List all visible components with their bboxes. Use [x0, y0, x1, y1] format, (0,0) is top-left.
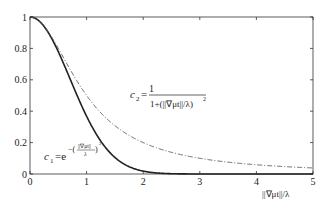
c1-exp-minus: −( [68, 145, 76, 154]
c2-lhs: c [130, 88, 135, 100]
y-tick-label: 0.2 [15, 137, 28, 148]
c1-equals-e: =e [55, 150, 66, 162]
c1-subscript: 1 [50, 157, 54, 165]
c1-exp-denominator: λ [83, 151, 87, 157]
c2-equals: = [141, 88, 147, 100]
y-tick-label: 0.4 [15, 106, 28, 117]
c2-square: 2 [203, 96, 206, 102]
x-tick-label: 2 [141, 176, 146, 187]
x-tick-label: 4 [254, 176, 259, 187]
y-tick-label: 0.8 [15, 43, 28, 54]
c1-exp-numerator: ||∇μt|| [78, 143, 91, 149]
x-tick-label: 3 [197, 176, 202, 187]
y-tick-label: 0.6 [15, 74, 28, 85]
x-tick-label: 1 [84, 176, 89, 187]
x-tick-label: 5 [311, 176, 316, 187]
c2-numerator: 1 [149, 83, 154, 94]
c2-formula-label: c 2 = 1 1+(||∇μt||/λ) 2 [130, 83, 206, 109]
y-tick-label: 1 [22, 12, 27, 23]
x-tick-label: 0 [28, 176, 33, 187]
c1-formula-label: c 1 =e −( ||∇μt|| λ ) 2 [44, 141, 102, 165]
line-chart: 01234500.20.40.60.81 c 2 = 1 1+(||∇μt||/… [0, 0, 324, 210]
c2-denominator: 1+(||∇μt||/λ) [150, 99, 193, 109]
x-axis-label: ||∇μt||/λ [262, 189, 290, 199]
c1-lhs: c [44, 150, 49, 162]
c1-exp-close: ) [95, 145, 98, 154]
y-tick-label: 0 [22, 169, 27, 180]
c2-subscript: 2 [136, 95, 140, 103]
